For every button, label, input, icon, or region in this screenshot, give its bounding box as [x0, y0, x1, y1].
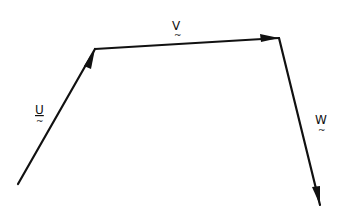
vector-v [95, 34, 279, 49]
vector-w [279, 38, 320, 205]
vector-diagram: U ~ V ~ W ~ [0, 0, 346, 216]
label-u: U [35, 103, 44, 117]
tilde-v: ~ [174, 30, 182, 40]
tilde-w: ~ [318, 125, 326, 135]
vector-u [18, 49, 95, 184]
tilde-u: ~ [36, 116, 44, 126]
arrowhead-v-icon [260, 34, 279, 42]
arrowhead-w-icon [312, 186, 320, 205]
